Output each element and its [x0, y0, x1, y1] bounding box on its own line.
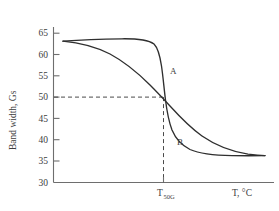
- y-axis-title: Band width, Gs: [8, 90, 18, 150]
- x-marker-label-t50g: T: [157, 188, 163, 198]
- y-tick-label-35: 35: [39, 156, 49, 166]
- curve-label-a: A: [170, 66, 177, 76]
- chart-canvas: 65 60 55 50 45 40 35 30 Band width, Gs T…: [0, 0, 279, 211]
- y-tick-label-50: 50: [39, 92, 49, 102]
- x-marker-label-t50g-subscript: 50G: [164, 193, 176, 200]
- y-tick-label-65: 65: [39, 28, 49, 38]
- y-tick-label-55: 55: [39, 71, 49, 81]
- curve-label-b: B: [177, 137, 183, 147]
- x-axis-title: T, °C: [232, 188, 252, 198]
- y-tick-label-45: 45: [39, 114, 49, 124]
- y-tick-label-40: 40: [39, 135, 49, 145]
- y-tick-label-30: 30: [39, 178, 49, 188]
- chart-figure: 65 60 55 50 45 40 35 30 Band width, Gs T…: [0, 0, 279, 211]
- y-tick-label-60: 60: [39, 50, 49, 60]
